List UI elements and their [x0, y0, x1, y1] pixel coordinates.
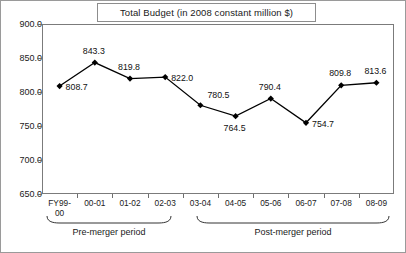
x-axis-tick-label: 07-08 [331, 199, 352, 209]
data-point-label: 790.4 [259, 82, 281, 92]
y-axis-tick-mark [37, 160, 42, 161]
x-axis-tick-mark [288, 194, 289, 198]
data-point-label: 819.8 [118, 62, 140, 72]
x-axis-tick-label: 02-03 [155, 199, 176, 209]
x-axis-tick-label: 04-05 [225, 199, 246, 209]
y-axis-tick-mark [37, 24, 42, 25]
chart-title: Total Budget (in 2008 constant million $… [97, 3, 316, 22]
y-axis-tick-mark [37, 126, 42, 127]
x-axis-tick-mark [183, 194, 184, 198]
data-point-label: 764.5 [224, 123, 246, 133]
data-point-label: 843.3 [83, 46, 105, 56]
x-axis-tick-mark [253, 194, 254, 198]
chart-figure: Total Budget (in 2008 constant million $… [0, 0, 406, 253]
y-axis-tick-mark [37, 194, 42, 195]
x-axis-tick-mark [77, 194, 78, 198]
data-point-label: 813.6 [364, 66, 386, 76]
y-axis: 900.0850.0800.0750.0700.0650.0 [1, 1, 42, 253]
x-axis-tick-label: FY99- 00 [48, 199, 71, 218]
post-merger-period-brace [197, 216, 389, 223]
y-axis-tick-mark [37, 92, 42, 93]
x-axis-tick-mark [359, 194, 360, 198]
x-axis-tick-label: 06-07 [295, 199, 316, 209]
x-axis-tick-label: 03-04 [190, 199, 211, 209]
x-axis-tick-mark [324, 194, 325, 198]
pre-merger-period-label: Pre-merger period [72, 227, 145, 237]
x-axis-tick-label: 08-09 [366, 199, 387, 209]
data-point-label: 780.5 [207, 90, 229, 100]
x-axis-tick-mark [148, 194, 149, 198]
post-merger-period-label: Post-merger period [254, 227, 331, 237]
data-point-label: 822.0 [171, 73, 193, 83]
x-axis-tick-label: 00-01 [84, 199, 105, 209]
x-axis-tick-label: 05-06 [260, 199, 281, 209]
x-axis-tick-mark [218, 194, 219, 198]
y-axis-tick-mark [37, 58, 42, 59]
data-point-label: 808.7 [66, 82, 88, 92]
x-axis-tick-mark [112, 194, 113, 198]
data-point-label: 754.7 [312, 119, 334, 129]
data-point-label: 809.8 [329, 68, 351, 78]
x-axis-tick-label: 01-02 [119, 199, 140, 209]
